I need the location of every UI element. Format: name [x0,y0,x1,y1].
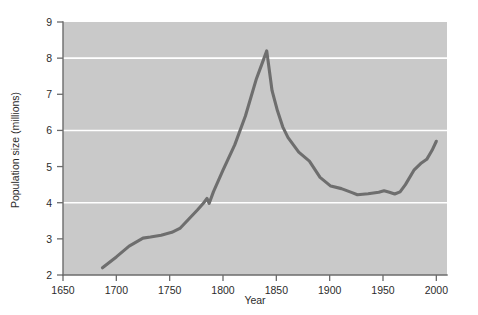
x-tick-label-1700: 1700 [105,284,129,296]
y-tick-label-3: 3 [46,233,52,245]
population-line-chart: 23456789 1650170017501800185019001950200… [0,0,478,315]
x-tick-label-1850: 1850 [265,284,289,296]
y-tick-label-6: 6 [46,124,52,136]
x-tick-label-2000: 2000 [425,284,449,296]
y-tick-label-4: 4 [46,197,52,209]
y-axis-ticks: 23456789 [46,16,63,281]
y-tick-label-5: 5 [46,161,52,173]
x-tick-label-1950: 1950 [371,284,395,296]
x-axis-title: Year [244,294,266,306]
x-tick-label-1800: 1800 [211,284,235,296]
y-axis-title: Population size (millions) [9,92,21,208]
x-tick-label-1900: 1900 [318,284,342,296]
x-axis-ticks: 16501700175018001850190019502000 [51,275,448,296]
y-tick-label-8: 8 [46,52,52,64]
plot-area-background [63,22,447,275]
x-tick-label-1750: 1750 [158,284,182,296]
chart-canvas: 23456789 1650170017501800185019001950200… [0,0,478,315]
y-tick-label-7: 7 [46,88,52,100]
y-tick-label-9: 9 [46,16,52,28]
y-tick-label-2: 2 [46,269,52,281]
x-tick-label-1650: 1650 [51,284,75,296]
